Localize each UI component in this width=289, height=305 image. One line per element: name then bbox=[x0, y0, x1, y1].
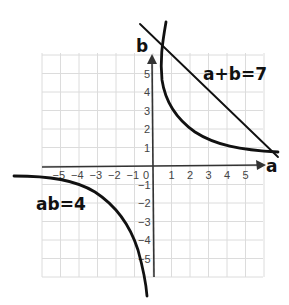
a-tick-label: −2 bbox=[108, 169, 121, 181]
a-tick-label: −4 bbox=[71, 169, 84, 181]
b-tick-label: 1 bbox=[144, 142, 150, 154]
b-tick-label: −1 bbox=[138, 179, 151, 191]
b-tick-label: −4 bbox=[138, 234, 151, 246]
b-tick-label: −3 bbox=[138, 216, 151, 228]
a-tick-label: 5 bbox=[243, 169, 249, 181]
a-tick-label: 2 bbox=[187, 169, 193, 181]
b-tick-label: 2 bbox=[144, 123, 150, 135]
a-tick-label: 1 bbox=[169, 169, 175, 181]
a-tick-label: 4 bbox=[224, 169, 230, 181]
b-tick-label: 3 bbox=[144, 105, 150, 117]
graph: −5−4−3−2−1012345 54321−1−2−3−4−5 b a a+b… bbox=[0, 0, 289, 305]
line-equation-label: a+b=7 bbox=[203, 64, 267, 84]
hyperbola-branch-q1 bbox=[161, 22, 278, 152]
b-tick-label: −2 bbox=[138, 197, 151, 209]
a-axis bbox=[42, 165, 262, 167]
hyperbola-equation-label: ab=4 bbox=[36, 194, 86, 214]
a-tick-label: 3 bbox=[206, 169, 212, 181]
a-tick-label: −3 bbox=[90, 169, 103, 181]
a-axis-tick-labels: −5−4−3−2−1012345 bbox=[53, 169, 249, 181]
a-axis-label: a bbox=[266, 156, 277, 176]
b-tick-label: 4 bbox=[144, 86, 150, 98]
b-tick-label: 5 bbox=[144, 68, 150, 80]
b-axis-label: b bbox=[136, 36, 148, 56]
b-axis bbox=[152, 60, 154, 277]
